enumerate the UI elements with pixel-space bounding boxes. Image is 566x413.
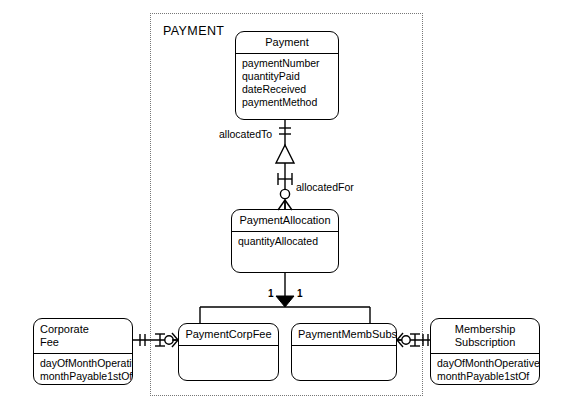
- entity-payment[interactable]: Payment paymentNumber quantityPaid dateR…: [235, 31, 339, 120]
- attribute: monthPayable1stOf: [40, 370, 126, 383]
- entity-membership-subscription-attributes: dayOfMonthOperative monthPayable1stOf: [431, 354, 539, 385]
- entity-payment-memb-subs-divider: [292, 345, 396, 346]
- entity-payment-corp-fee-divider: [179, 345, 278, 346]
- entity-membership-subscription-title: Membership Subscription: [431, 319, 539, 353]
- entity-payment-title: Payment: [236, 32, 338, 53]
- attribute: quantityAllocated: [238, 235, 332, 248]
- entity-payment-attributes: paymentNumber quantityPaid dateReceived …: [236, 54, 338, 113]
- diagram-canvas: PAYMENT Payment paymentNumber quantityPa…: [0, 0, 566, 413]
- payment-subject-area-label: PAYMENT: [163, 24, 224, 38]
- attribute: paymentNumber: [242, 57, 332, 70]
- entity-payment-allocation-title: PaymentAllocation: [232, 210, 338, 231]
- entity-payment-allocation-attributes: quantityAllocated: [232, 232, 338, 252]
- entity-payment-memb-subs[interactable]: PaymentMembSubs: [291, 323, 397, 381]
- entity-membership-subscription[interactable]: Membership Subscription dayOfMonthOperat…: [430, 318, 540, 385]
- entity-payment-memb-subs-title: PaymentMembSubs: [292, 324, 396, 345]
- attribute: monthPayable1stOf: [437, 370, 533, 383]
- relationship-label-allocated-to: allocatedTo: [219, 128, 272, 140]
- attribute: dayOfMonthOperative: [40, 357, 126, 370]
- attribute: dateReceived: [242, 83, 332, 96]
- entity-corporate-fee-title: Corporate Fee: [34, 319, 132, 353]
- entity-payment-corp-fee-title: PaymentCorpFee: [179, 324, 278, 345]
- cardinality-label-corp: 1: [268, 288, 274, 299]
- entity-corporate-fee[interactable]: Corporate Fee dayOfMonthOperative monthP…: [33, 318, 133, 385]
- entity-corporate-fee-attributes: dayOfMonthOperative monthPayable1stOf: [34, 354, 132, 385]
- attribute: paymentMethod: [242, 96, 332, 109]
- relationship-label-allocated-for: allocatedFor: [296, 181, 354, 193]
- attribute: quantityPaid: [242, 70, 332, 83]
- cardinality-label-memb: 1: [297, 288, 303, 299]
- entity-payment-corp-fee[interactable]: PaymentCorpFee: [178, 323, 279, 381]
- entity-payment-allocation[interactable]: PaymentAllocation quantityAllocated: [231, 209, 339, 273]
- attribute: dayOfMonthOperative: [437, 357, 533, 370]
